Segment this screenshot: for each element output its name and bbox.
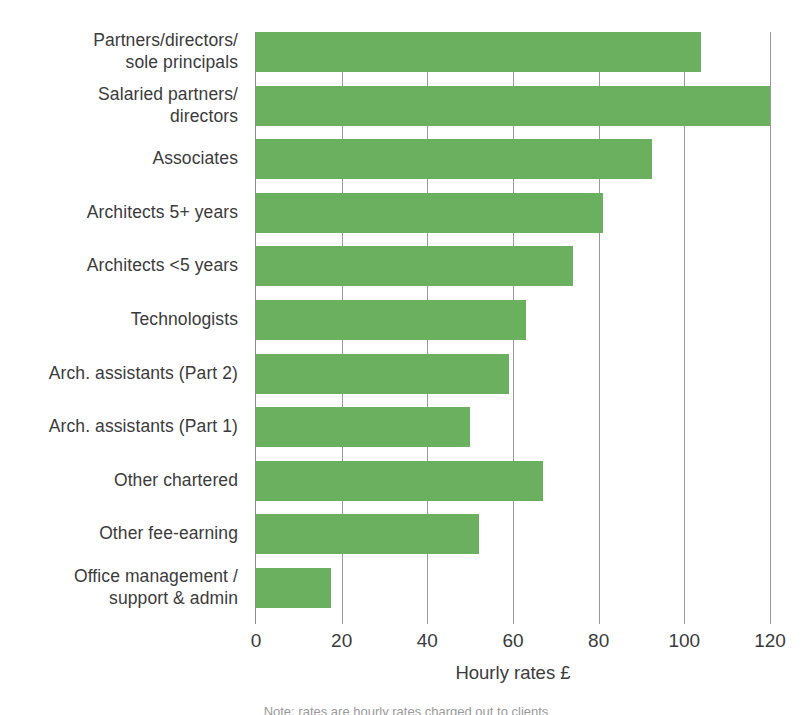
bar <box>256 32 701 72</box>
gridline-120 <box>770 32 771 624</box>
x-tick-label: 20 <box>331 630 352 652</box>
plot-area <box>256 32 770 622</box>
category-label: Other fee-earning <box>0 522 248 544</box>
category-label: Architects 5+ years <box>0 201 248 223</box>
x-axis-ticks: 020406080100120 <box>256 624 770 664</box>
x-tick-label: 100 <box>668 630 700 652</box>
category-label: Office management / support & admin <box>0 565 248 609</box>
x-axis-title: Hourly rates £ <box>256 662 770 684</box>
category-label: Partners/directors/ sole principals <box>0 29 248 73</box>
category-label: Arch. assistants (Part 1) <box>0 415 248 437</box>
category-label: Arch. assistants (Part 2) <box>0 362 248 384</box>
category-label: Technologists <box>0 308 248 330</box>
bar <box>256 514 479 554</box>
bar <box>256 461 543 501</box>
bar <box>256 407 470 447</box>
clipped-caption: Note: rates are hourly rates charged out… <box>0 705 812 715</box>
bar <box>256 300 526 340</box>
x-tick-label: 0 <box>251 630 262 652</box>
category-label: Associates <box>0 147 248 169</box>
bar <box>256 354 509 394</box>
bar <box>256 246 573 286</box>
x-tick-label: 60 <box>502 630 523 652</box>
category-label: Architects <5 years <box>0 254 248 276</box>
bar-chart: Partners/directors/ sole principalsSalar… <box>0 0 812 715</box>
caption-text: Note: rates are hourly rates charged out… <box>0 705 812 715</box>
category-label: Salaried partners/ directors <box>0 83 248 127</box>
category-label: Other chartered <box>0 469 248 491</box>
x-tick-label: 120 <box>754 630 786 652</box>
bar <box>256 568 331 608</box>
bar <box>256 86 770 126</box>
x-tick-label: 40 <box>417 630 438 652</box>
category-label-column: Partners/directors/ sole principalsSalar… <box>0 32 248 622</box>
x-tick-label: 80 <box>588 630 609 652</box>
bar <box>256 193 603 233</box>
bar <box>256 139 652 179</box>
